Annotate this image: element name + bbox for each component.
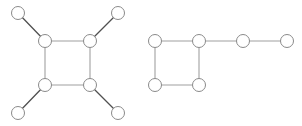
nodes-layer	[12, 7, 294, 120]
node-b1	[149, 35, 162, 48]
node-b3	[149, 79, 162, 92]
node-a2	[84, 35, 97, 48]
node-a6	[112, 7, 125, 20]
edges-layer	[18, 13, 287, 113]
node-a8	[112, 107, 125, 120]
graph-diagram	[0, 0, 302, 126]
node-a1	[39, 35, 52, 48]
node-a7	[12, 107, 25, 120]
node-b2	[193, 35, 206, 48]
node-b4	[193, 79, 206, 92]
node-a5	[12, 7, 25, 20]
node-a3	[39, 79, 52, 92]
node-b5	[237, 35, 250, 48]
node-a4	[84, 79, 97, 92]
node-b6	[281, 35, 294, 48]
